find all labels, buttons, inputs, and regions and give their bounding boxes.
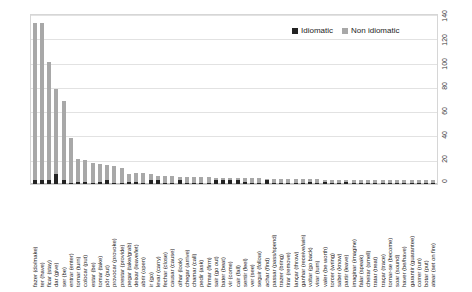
- bar-column: [357, 15, 364, 184]
- stacked-bar[interactable]: [272, 179, 276, 184]
- bar-segment-idiomatic: [352, 183, 356, 184]
- bar-column: [162, 15, 169, 184]
- stacked-bar[interactable]: [236, 178, 240, 184]
- bar-segment-non-idiomatic: [40, 23, 44, 180]
- bar-segment-idiomatic: [265, 180, 269, 184]
- stacked-bar[interactable]: [344, 180, 348, 184]
- stacked-bar[interactable]: [431, 180, 435, 184]
- x-label-cell: sair (go out): [212, 187, 219, 287]
- stacked-bar[interactable]: [134, 173, 138, 184]
- stacked-bar[interactable]: [257, 178, 261, 184]
- bar-segment-idiomatic: [359, 183, 363, 184]
- stacked-bar[interactable]: [62, 101, 66, 184]
- stacked-bar[interactable]: [381, 180, 385, 184]
- stacked-bar[interactable]: [120, 168, 124, 184]
- bar-segment-idiomatic: [170, 183, 174, 184]
- x-axis-tick-label: pôr (put): [104, 187, 110, 287]
- stacked-bar[interactable]: [33, 23, 37, 184]
- stacked-bar[interactable]: [228, 178, 232, 184]
- stacked-bar[interactable]: [192, 177, 196, 184]
- bar-segment-idiomatic: [105, 180, 109, 184]
- x-axis-tick-label: provocar (provoke): [111, 187, 117, 287]
- stacked-bar[interactable]: [127, 174, 131, 184]
- bar-column: [133, 15, 140, 184]
- stacked-bar[interactable]: [112, 166, 116, 184]
- y-axis-tick-label: 80: [440, 82, 449, 90]
- bar-segment-idiomatic: [228, 180, 232, 184]
- stacked-bar[interactable]: [294, 179, 298, 184]
- stacked-bar[interactable]: [388, 180, 392, 184]
- bar-column: [125, 15, 132, 184]
- stacked-bar[interactable]: [185, 177, 189, 184]
- stacked-bar[interactable]: [330, 180, 334, 184]
- x-label-cell: prestar (provide): [118, 187, 125, 287]
- stacked-bar[interactable]: [395, 180, 399, 184]
- stacked-bar[interactable]: [221, 178, 225, 184]
- stacked-bar[interactable]: [402, 180, 406, 184]
- x-axis-tick-label: seguir (follow): [256, 187, 262, 287]
- stacked-bar[interactable]: [47, 62, 51, 184]
- stacked-bar[interactable]: [410, 180, 414, 184]
- x-axis-tick-label: ver (see): [249, 187, 255, 287]
- stacked-bar[interactable]: [40, 23, 44, 184]
- stacked-bar[interactable]: [315, 179, 319, 184]
- stacked-bar[interactable]: [83, 160, 87, 184]
- stacked-bar[interactable]: [424, 180, 428, 184]
- stacked-bar[interactable]: [98, 164, 102, 185]
- stacked-bar[interactable]: [156, 176, 160, 184]
- x-axis-tick-label: firmar (firm): [206, 187, 212, 287]
- x-axis-tick-label: entrar (enter): [68, 187, 74, 287]
- stacked-bar[interactable]: [308, 179, 312, 184]
- x-axis-tick-label: dar (give): [53, 187, 59, 287]
- stacked-bar[interactable]: [214, 178, 218, 184]
- stacked-bar[interactable]: [178, 177, 182, 184]
- x-label-cell: ser (be): [60, 187, 67, 287]
- stacked-bar[interactable]: [265, 179, 269, 184]
- stacked-bar[interactable]: [323, 180, 327, 184]
- stacked-bar[interactable]: [359, 180, 363, 184]
- stacked-bar[interactable]: [170, 176, 174, 184]
- stacked-bar[interactable]: [149, 174, 153, 184]
- x-label-cell: passar (pass/spend): [270, 187, 277, 287]
- bar-segment-non-idiomatic: [91, 163, 95, 182]
- x-axis-tick-label: bater (beat): [220, 187, 226, 287]
- stacked-bar[interactable]: [279, 179, 283, 184]
- stacked-bar[interactable]: [417, 180, 421, 184]
- x-axis-tick-label: voltar (go back): [307, 187, 313, 287]
- bar-column: [75, 15, 82, 184]
- x-axis-tick-label: sair (go out): [213, 187, 219, 287]
- bar-column: [220, 15, 227, 184]
- bar-column: [256, 15, 263, 184]
- stacked-bar[interactable]: [243, 178, 247, 184]
- x-label-cell: saber (know): [336, 187, 343, 287]
- stacked-bar[interactable]: [337, 180, 341, 184]
- stacked-bar[interactable]: [301, 179, 305, 184]
- x-label-cell: correr (run): [415, 187, 422, 287]
- bar-segment-idiomatic: [315, 183, 319, 184]
- bar-segment-idiomatic: [243, 182, 247, 184]
- stacked-bar[interactable]: [207, 177, 211, 184]
- bar-segment-idiomatic: [199, 183, 203, 184]
- stacked-bar[interactable]: [105, 165, 109, 184]
- stacked-bar[interactable]: [352, 180, 356, 184]
- bar-segment-idiomatic: [120, 183, 124, 184]
- stacked-bar[interactable]: [366, 180, 370, 184]
- bar-segment-idiomatic: [207, 183, 211, 184]
- stacked-bar[interactable]: [286, 179, 290, 184]
- y-axis-tick-label: 20: [440, 155, 449, 163]
- stacked-bar[interactable]: [141, 173, 145, 184]
- bar-segment-non-idiomatic: [127, 174, 131, 181]
- stacked-bar[interactable]: [91, 163, 95, 184]
- stacked-bar[interactable]: [54, 89, 58, 184]
- stacked-bar[interactable]: [373, 180, 377, 184]
- stacked-bar[interactable]: [76, 159, 80, 184]
- stacked-bar[interactable]: [69, 138, 73, 184]
- stacked-bar[interactable]: [250, 178, 254, 184]
- bar-segment-non-idiomatic: [170, 176, 174, 183]
- bar-column: [46, 15, 53, 184]
- stacked-bar[interactable]: [163, 176, 167, 184]
- x-label-cell: deixar (leave/let): [133, 187, 140, 287]
- x-axis-tick-label: trazer (bring): [278, 187, 284, 287]
- bar-segment-idiomatic: [69, 183, 73, 184]
- stacked-bar[interactable]: [199, 177, 203, 184]
